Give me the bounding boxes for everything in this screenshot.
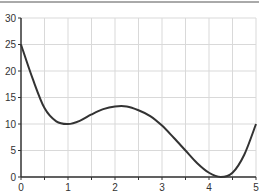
y-tick-label: 30 <box>5 13 17 24</box>
y-axis-ticks: 051015202530 <box>5 13 21 183</box>
line-chart: 051015202530 012345 <box>0 0 259 194</box>
y-tick-label: 15 <box>5 92 17 103</box>
y-tick-label: 20 <box>5 66 17 77</box>
y-tick-label: 5 <box>10 145 16 156</box>
x-axis-ticks: 012345 <box>18 177 259 193</box>
x-tick-label: 4 <box>206 182 212 193</box>
x-tick-label: 1 <box>65 182 71 193</box>
y-tick-label: 25 <box>5 39 17 50</box>
x-tick-label: 2 <box>112 182 118 193</box>
grid <box>21 18 256 177</box>
x-tick-label: 5 <box>253 182 259 193</box>
y-tick-label: 10 <box>5 119 17 130</box>
y-tick-label: 0 <box>10 172 16 183</box>
x-tick-label: 0 <box>18 182 24 193</box>
x-tick-label: 3 <box>159 182 165 193</box>
